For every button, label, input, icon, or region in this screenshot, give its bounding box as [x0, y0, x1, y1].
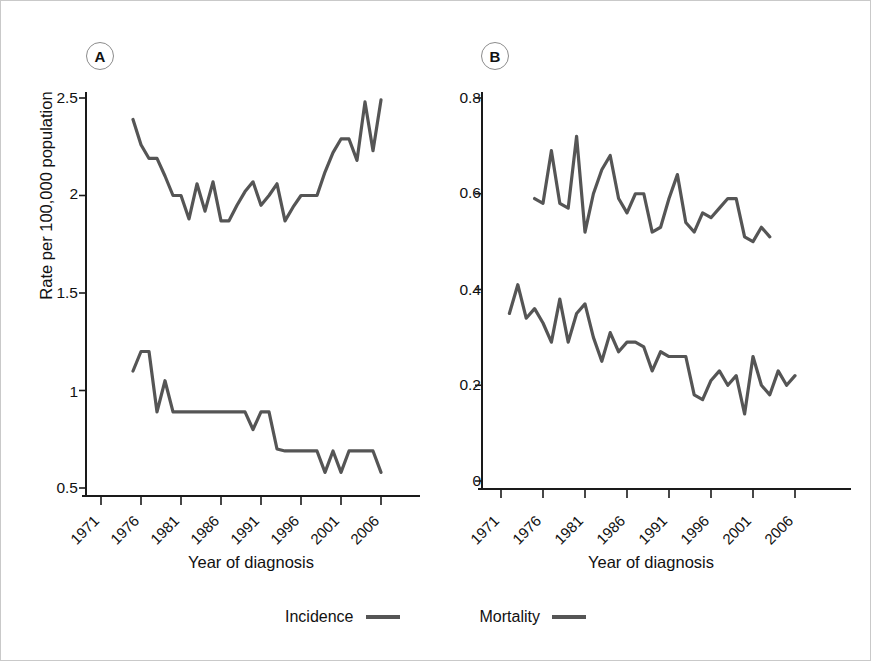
legend-item-incidence: Incidence: [285, 608, 400, 626]
panel-a-plot: [0, 0, 440, 600]
series-line-incidence: [133, 100, 381, 221]
panel-b: B Year of diagnosis 0 0.2 0.4 0.6 0.8 19…: [435, 0, 871, 600]
legend-line-swatch-icon: [552, 615, 586, 619]
series-line-mortality: [133, 352, 381, 473]
legend-label-mortality: Mortality: [480, 608, 540, 626]
panel-a: A Rate per 100,000 population Year of di…: [0, 0, 440, 600]
series-line-mortality: [509, 285, 795, 414]
series-line-incidence: [535, 136, 770, 241]
panel-b-plot: [435, 0, 871, 600]
legend-label-incidence: Incidence: [285, 608, 354, 626]
legend: Incidence Mortality: [0, 608, 871, 626]
legend-line-swatch-icon: [366, 615, 400, 619]
figure-root: A Rate per 100,000 population Year of di…: [0, 0, 871, 661]
legend-item-mortality: Mortality: [480, 608, 586, 626]
